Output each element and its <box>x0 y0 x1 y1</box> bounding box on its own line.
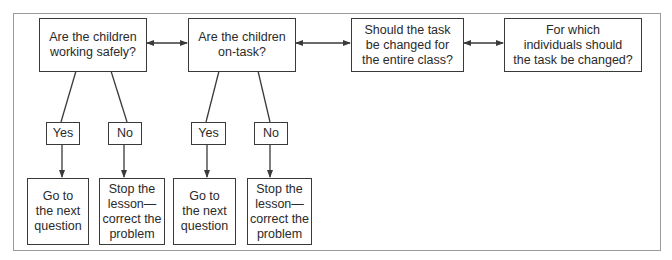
outcome-label: Go to the next question <box>34 189 81 234</box>
question-label: Are the children working safely? <box>49 30 137 60</box>
answer-label: Yes <box>198 126 218 141</box>
answer-no-q2: No <box>254 122 288 145</box>
answer-label: No <box>117 126 133 141</box>
outcome-label: Stop the lesson— correct the problem <box>250 182 309 242</box>
question-label: Are the children on-task? <box>198 30 286 60</box>
outcome-stop-lesson-q1: Stop the lesson— correct the problem <box>99 178 165 245</box>
answer-yes-q2: Yes <box>191 122 226 145</box>
question-label: Should the task be changed for the entir… <box>362 23 453 68</box>
answer-yes-q1: Yes <box>46 122 80 145</box>
question-box-on-task: Are the children on-task? <box>188 18 296 72</box>
answer-label: No <box>263 126 279 141</box>
question-box-entire-class: Should the task be changed for the entir… <box>351 18 464 72</box>
answer-label: Yes <box>53 126 73 141</box>
outcome-label: Stop the lesson— correct the problem <box>102 182 161 242</box>
answer-no-q1: No <box>108 122 142 145</box>
question-box-individuals: For which individuals should the task be… <box>504 18 642 72</box>
outcome-next-question-q1: Go to the next question <box>27 178 89 245</box>
outcome-label: Go to the next question <box>181 189 228 234</box>
outcome-next-question-q2: Go to the next question <box>173 178 236 245</box>
question-box-working-safely: Are the children working safely? <box>39 18 147 72</box>
question-label: For which individuals should the task be… <box>513 23 633 68</box>
outcome-stop-lesson-q2: Stop the lesson— correct the problem <box>247 178 312 245</box>
